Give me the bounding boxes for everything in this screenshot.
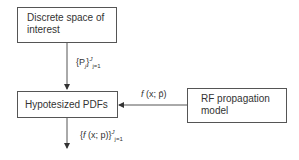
rf-model-line1: RF propagation	[201, 93, 286, 105]
pdfs-out-label: {f (x; p)}Jj=1	[80, 129, 123, 142]
hypothesized-pdfs-label: Hypotesized PDFs	[25, 99, 117, 111]
space-to-pdfs-label: {Pj}Jj=1	[76, 56, 101, 69]
model-to-pdfs-label: f (x; p̄)	[141, 89, 167, 99]
hypothesized-pdfs-box: Hypotesized PDFs	[17, 91, 118, 118]
discrete-space-line1: Discrete space of	[27, 12, 116, 24]
rf-model-box: RF propagation model	[187, 88, 287, 123]
rf-model-line2: model	[201, 105, 286, 117]
discrete-space-line2: interest	[27, 24, 116, 36]
discrete-space-box: Discrete space of interest	[17, 7, 117, 43]
